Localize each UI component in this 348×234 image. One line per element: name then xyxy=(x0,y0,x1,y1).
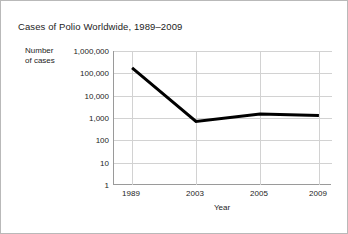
x-tick-label: 2005 xyxy=(250,189,268,198)
chart-title: Cases of Polio Worldwide, 1989–2009 xyxy=(18,21,182,32)
y-axis-tick-labels: 1,000,000 100,000 10,000 1,000 100 10 1 xyxy=(17,51,109,185)
y-tick-label: 1 xyxy=(19,181,109,190)
y-tick-label: 100 xyxy=(19,136,109,145)
x-tick-label: 2003 xyxy=(186,189,204,198)
y-tick-label: 10 xyxy=(19,158,109,167)
y-tick-label: 10,000 xyxy=(19,91,109,100)
y-tick-label: 1,000 xyxy=(19,114,109,123)
x-axis-title: Year xyxy=(113,203,331,212)
series-polyline xyxy=(132,68,319,122)
chart-figure: Cases of Polio Worldwide, 1989–2009 Numb… xyxy=(0,0,348,234)
x-axis-tick-labels: 1989 2003 2005 2009 xyxy=(113,189,337,201)
x-tick-label: 1989 xyxy=(122,189,140,198)
y-tick-label: 1,000,000 xyxy=(19,47,109,56)
data-series-line xyxy=(114,51,332,185)
plot-area xyxy=(113,51,331,185)
x-tick-label: 2009 xyxy=(309,189,327,198)
y-tick-label: 100,000 xyxy=(19,69,109,78)
